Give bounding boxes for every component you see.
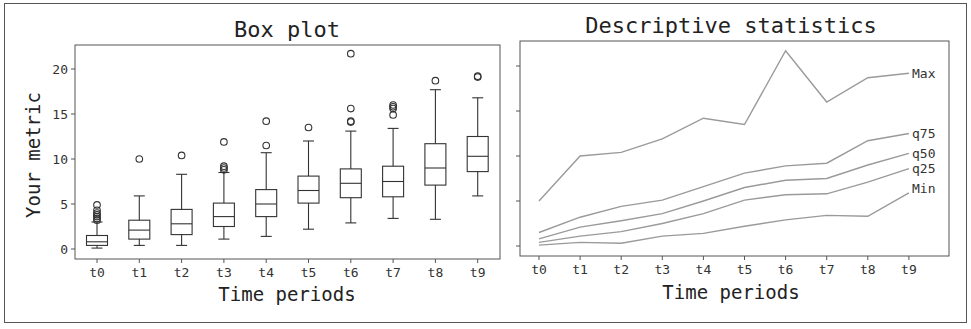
outlier-point (390, 112, 397, 119)
x-tick-label: t4 (258, 265, 274, 280)
box-plot-ylabel: Your metric (22, 92, 44, 218)
box-plot-title: Box plot (234, 17, 340, 42)
series-label-max: Max (912, 66, 936, 81)
x-tick-label: t3 (216, 265, 232, 280)
outlier-point (263, 118, 270, 125)
x-tick-label: t4 (696, 262, 712, 277)
outlier-point (136, 156, 143, 163)
x-tick-label: t8 (860, 262, 876, 277)
box-t9 (467, 73, 488, 196)
descriptive-stats-axes (520, 41, 949, 256)
x-tick-label: t5 (301, 265, 317, 280)
y-tick-label: 0 (60, 242, 68, 257)
line-max (539, 51, 909, 201)
box-plot-xlabel: Time periods (218, 283, 355, 305)
series-label-q75: q75 (912, 126, 935, 141)
x-tick-label: t3 (654, 262, 670, 277)
boxes (87, 50, 489, 248)
box-t7 (383, 102, 404, 219)
box-t8 (425, 77, 446, 219)
right-x-axis-ticks: t0t1t2t3t4t5t6t7t8t9 (531, 256, 917, 277)
x-tick-label: t9 (901, 262, 917, 277)
line-q50 (539, 153, 909, 239)
box-t0 (87, 202, 108, 249)
x-tick-label: t6 (343, 265, 359, 280)
y-tick-label: 5 (60, 197, 68, 212)
descriptive-stats-panel: Descriptive statistics t0t1t2t3t4t5t6t7t… (516, 13, 949, 303)
outlier-point (221, 139, 228, 146)
box-t3 (213, 139, 234, 240)
x-tick-label: t6 (778, 262, 794, 277)
figure-canvas: Box plot 05101520 t0t1t2t3t4t5t6t7t8t9 T… (0, 0, 971, 329)
y-tick-label: 15 (52, 107, 68, 122)
right-y-axis-ticks (516, 66, 520, 246)
stat-lines: Maxq75q50q25Min (539, 51, 936, 245)
x-tick-label: t0 (531, 262, 547, 277)
box-t2 (171, 152, 192, 245)
outlier-point (178, 152, 185, 159)
descriptive-stats-title: Descriptive statistics (585, 13, 876, 38)
x-tick-label: t5 (737, 262, 753, 277)
x-axis-ticks: t0t1t2t3t4t5t6t7t8t9 (89, 259, 485, 280)
box-t6 (340, 50, 361, 223)
y-tick-label: 20 (52, 62, 68, 77)
outlier-point (348, 105, 355, 112)
x-tick-label: t2 (174, 265, 190, 280)
x-tick-label: t7 (385, 265, 401, 280)
x-tick-label: t0 (89, 265, 105, 280)
x-tick-label: t9 (470, 265, 486, 280)
line-q75 (539, 134, 909, 233)
series-label-min: Min (912, 181, 935, 196)
series-label-q50: q50 (912, 146, 935, 161)
outlier-point (263, 142, 270, 149)
box-plot-panel: Box plot 05101520 t0t1t2t3t4t5t6t7t8t9 T… (22, 17, 500, 305)
outlier-point (305, 124, 312, 131)
outlier-point (348, 50, 355, 57)
x-tick-label: t7 (819, 262, 835, 277)
x-tick-label: t2 (613, 262, 629, 277)
box-t4 (256, 118, 277, 237)
x-tick-label: t1 (572, 262, 588, 277)
y-tick-label: 10 (52, 152, 68, 167)
line-min (539, 193, 909, 245)
y-axis-ticks: 05101520 (52, 62, 75, 257)
series-label-q25: q25 (912, 161, 935, 176)
box-t1 (129, 156, 150, 246)
x-tick-label: t8 (428, 265, 444, 280)
x-tick-label: t1 (131, 265, 147, 280)
box-t5 (298, 124, 319, 229)
descriptive-stats-xlabel: Time periods (662, 281, 799, 303)
outlier-point (432, 77, 439, 84)
